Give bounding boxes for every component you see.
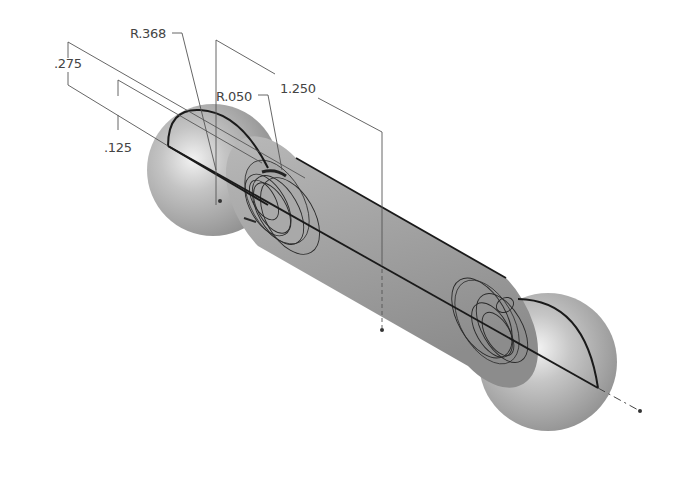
axis-lines — [168, 146, 598, 388]
dimension-r368[interactable]: R.368 — [130, 26, 166, 41]
dimension-endpoint — [380, 328, 384, 332]
cad-model-view: R.368 .275 .125 R.050 1.250 — [0, 0, 674, 484]
dimension-1250[interactable]: 1.250 — [280, 81, 316, 96]
sketch-point — [218, 199, 222, 203]
dimension-275[interactable]: .275 — [54, 56, 82, 71]
dimension-r050[interactable]: R.050 — [216, 89, 252, 104]
cad-drawing-canvas: R.368 .275 .125 R.050 1.250 — [0, 0, 674, 484]
centerline-endpoint — [638, 409, 642, 413]
dimension-125[interactable]: .125 — [104, 140, 132, 155]
